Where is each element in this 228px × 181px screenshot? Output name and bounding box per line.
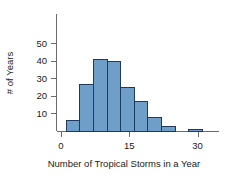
- histogram-bar: [189, 130, 203, 132]
- y-tick-label: 50: [36, 38, 47, 49]
- y-axis-title: # of Years: [4, 52, 15, 95]
- x-tick-label: 0: [58, 140, 63, 151]
- histogram-bar: [93, 60, 107, 132]
- x-tick-label: 30: [192, 140, 203, 151]
- x-axis-title: Number of Tropical Storms in a Year: [48, 158, 201, 169]
- y-tick-label: 40: [36, 55, 47, 66]
- histogram-bar: [134, 102, 148, 132]
- histogram-bar: [162, 126, 176, 131]
- y-tick-label: 10: [36, 108, 47, 119]
- chart-canvas: 1020304050 01530 Number of Tropical Stor…: [0, 0, 228, 181]
- histogram-chart: 1020304050 01530 Number of Tropical Stor…: [0, 0, 228, 181]
- histogram-bar: [66, 121, 80, 132]
- histogram-bar: [80, 84, 94, 131]
- histogram-bar: [107, 61, 121, 131]
- x-tick-label: 15: [124, 140, 135, 151]
- histogram-bar: [148, 117, 162, 131]
- histogram-bar: [121, 88, 135, 132]
- y-tick-label: 20: [36, 90, 47, 101]
- y-tick-label: 30: [36, 73, 47, 84]
